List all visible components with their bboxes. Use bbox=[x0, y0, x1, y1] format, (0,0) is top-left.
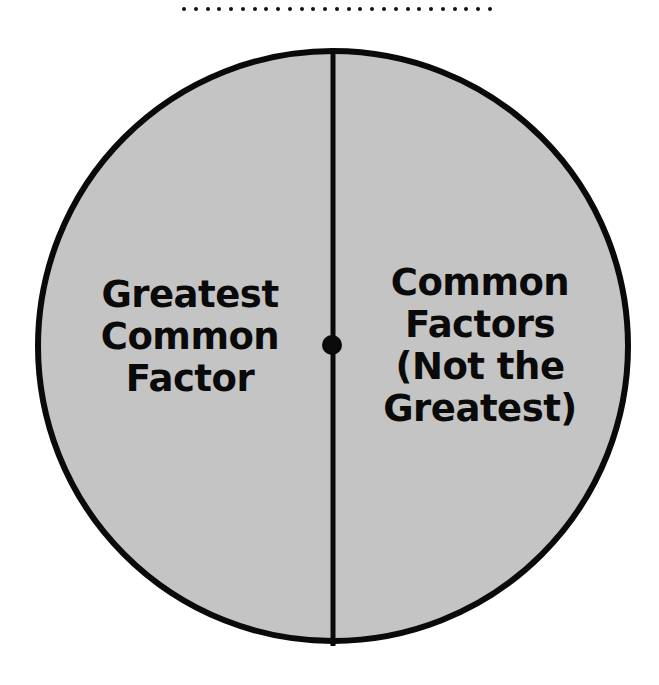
label-line: Factor bbox=[60, 358, 320, 400]
region-right-label: Common Factors (Not the Greatest) bbox=[350, 262, 610, 430]
center-dot bbox=[322, 335, 342, 355]
region-left-label: Greatest Common Factor bbox=[60, 274, 320, 400]
label-line: Common bbox=[60, 316, 320, 358]
label-line: Factors bbox=[350, 304, 610, 346]
label-line: Greatest) bbox=[350, 388, 610, 430]
label-line: Common bbox=[350, 262, 610, 304]
label-line: Greatest bbox=[60, 274, 320, 316]
label-line: (Not the bbox=[350, 346, 610, 388]
